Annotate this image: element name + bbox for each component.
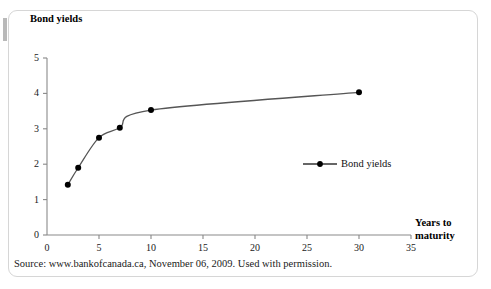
y-axis-ticks [43, 58, 47, 235]
x-tick-label: 15 [192, 242, 214, 253]
source-caption: Source: www.bankofcanada.ca, November 06… [14, 258, 332, 269]
legend-entry-label: Bond yields [341, 158, 391, 169]
y-tick-label: 4 [25, 87, 39, 98]
x-tick-label: 25 [296, 242, 318, 253]
y-tick-label: 1 [25, 194, 39, 205]
x-tick-label: 35 [400, 242, 422, 253]
data-point-marker [117, 125, 123, 131]
x-tick-label: 5 [88, 242, 110, 253]
y-tick-label: 2 [25, 158, 39, 169]
data-point-marker [75, 165, 81, 171]
data-point-marker [96, 135, 102, 141]
chart-legend: Bond yields [303, 158, 391, 169]
x-tick-label: 30 [348, 242, 370, 253]
data-point-marker [65, 182, 71, 188]
x-axis-title: Years to maturity [415, 217, 491, 242]
yield-curve-chart: Bond yields Years to maturity 012345 051… [0, 0, 491, 252]
data-point-marker [148, 107, 154, 113]
x-tick-label: 20 [244, 242, 266, 253]
legend-marker-icon [303, 159, 337, 169]
y-tick-label: 5 [25, 52, 39, 63]
y-axis-title: Bond yields [30, 13, 82, 26]
x-tick-label: 0 [36, 242, 58, 253]
x-axis-ticks [99, 235, 411, 239]
data-point-marker [356, 89, 362, 95]
bond-yields-line [68, 92, 359, 184]
y-tick-label: 3 [25, 123, 39, 134]
chart-plot-svg [0, 0, 491, 252]
x-tick-label: 10 [140, 242, 162, 253]
y-tick-label: 0 [25, 229, 39, 240]
